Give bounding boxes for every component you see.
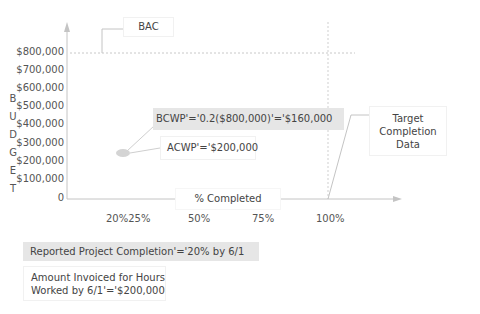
x-tick-label: 20%25% — [106, 213, 150, 224]
bcwp-label: BCWP'='0.2($800,000)'='$160,000 — [156, 113, 332, 124]
bac-connector — [102, 29, 123, 53]
y-label-letter: T — [8, 183, 18, 194]
x-axis-label: % Completed — [194, 193, 261, 204]
reported-completion-label: Reported Project Completion'='20% by 6/1 — [30, 246, 244, 257]
y-tick-label: $100,000 — [16, 173, 64, 184]
amount-invoiced-line: Worked by 6/1'='$200,000 — [31, 284, 165, 297]
x-axis-label-box: % Completed — [175, 188, 281, 210]
x-tick-label: 50% — [188, 213, 210, 224]
x-tick-label: 100% — [316, 213, 345, 224]
y-tick-label: $300,000 — [16, 137, 64, 148]
target-completion-box: Target Completion Data — [369, 106, 447, 156]
amount-invoiced-box: Amount Invoiced for Hours Worked by 6/1'… — [23, 266, 166, 301]
data-point — [116, 149, 130, 157]
amount-invoiced-line: Amount Invoiced for Hours — [31, 271, 165, 284]
bac-label-box: BAC — [123, 17, 174, 37]
y-tick-label: $200,000 — [16, 155, 64, 166]
y-axis-arrow-icon — [64, 22, 70, 32]
y-tick-label: $700,000 — [16, 64, 64, 75]
y-tick-label: $600,000 — [16, 82, 64, 93]
x-tick-label: 75% — [252, 213, 274, 224]
target-label-line: Completion — [370, 125, 446, 138]
y-tick-label: $500,000 — [16, 100, 64, 111]
bcwp-label-box: BCWP'='0.2($800,000)'='$160,000 — [153, 108, 344, 130]
bac-label: BAC — [138, 21, 159, 32]
acwp-connector — [130, 148, 160, 153]
y-tick-label: 0 — [58, 192, 64, 203]
reported-completion-box: Reported Project Completion'='20% by 6/1 — [23, 242, 259, 261]
target-label-line: Target — [370, 112, 446, 125]
target-label-line: Data — [370, 138, 446, 151]
y-tick-label: $400,000 — [16, 118, 64, 129]
x-axis-arrow-icon — [393, 196, 402, 202]
bcwp-connector — [127, 126, 154, 151]
acwp-label: ACWP'='$200,000 — [167, 142, 258, 153]
acwp-label-box: ACWP'='$200,000 — [160, 136, 256, 160]
y-tick-label: $800,000 — [16, 46, 64, 57]
